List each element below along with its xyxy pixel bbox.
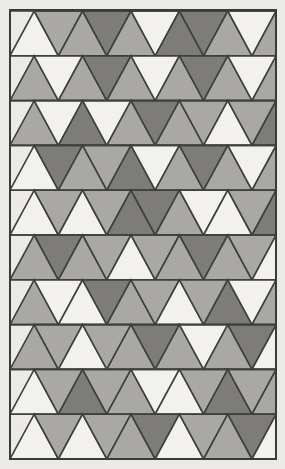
tessellation-artwork [0, 0, 285, 469]
triangle-grid [10, 11, 285, 459]
tessellation-canvas [0, 0, 285, 469]
